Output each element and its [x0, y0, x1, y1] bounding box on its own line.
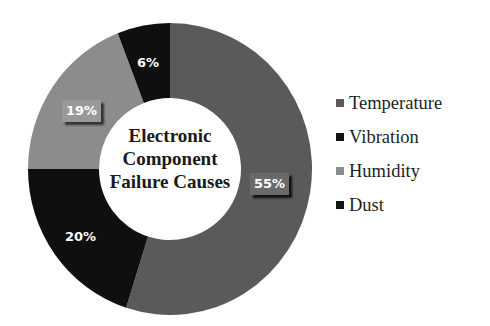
legend-label: Vibration — [349, 127, 419, 148]
chart-title: Electronic Component Failure Causes — [95, 124, 245, 193]
legend-item-dust: Dust — [336, 188, 442, 222]
legend-label: Temperature — [349, 93, 442, 114]
data-label-temperature: 55% — [250, 173, 289, 195]
legend-label: Dust — [349, 195, 384, 216]
legend-swatch-icon — [336, 99, 344, 107]
data-label-humidity: 19% — [62, 100, 101, 122]
chart-title-line: Failure Causes — [95, 170, 245, 193]
legend-swatch-icon — [336, 167, 344, 175]
data-label-vibration: 20% — [65, 229, 96, 245]
chart-legend: Temperature Vibration Humidity Dust — [336, 86, 442, 222]
data-label-dust: 6% — [137, 55, 159, 71]
legend-item-temperature: Temperature — [336, 86, 442, 120]
legend-label: Humidity — [349, 161, 420, 182]
legend-swatch-icon — [336, 201, 344, 209]
legend-item-humidity: Humidity — [336, 154, 442, 188]
chart-title-line: Electronic — [95, 124, 245, 147]
legend-item-vibration: Vibration — [336, 120, 442, 154]
legend-swatch-icon — [336, 133, 344, 141]
chart-title-line: Component — [95, 147, 245, 170]
